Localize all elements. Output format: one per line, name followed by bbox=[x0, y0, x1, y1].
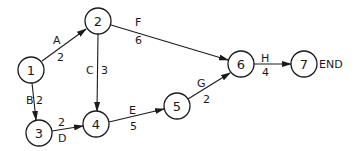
edge-g-duration: 2 bbox=[203, 93, 210, 106]
node-7-label: 7 bbox=[300, 57, 308, 72]
edge-a-activity: A bbox=[53, 34, 61, 47]
edge-a bbox=[42, 29, 86, 61]
edge-c bbox=[97, 34, 98, 111]
edge-d bbox=[52, 126, 83, 131]
node-1: 1 bbox=[18, 57, 44, 83]
edge-c-duration: 3 bbox=[101, 64, 108, 77]
node-4: 4 bbox=[83, 111, 109, 137]
node-2: 2 bbox=[85, 8, 111, 34]
node-2-label: 2 bbox=[94, 14, 102, 29]
end-label: END bbox=[319, 58, 343, 71]
edge-e-duration: 5 bbox=[130, 120, 137, 133]
node-5-label: 5 bbox=[173, 99, 181, 114]
edge-e-activity: E bbox=[129, 104, 136, 117]
node-6: 6 bbox=[228, 51, 254, 77]
node-7: 7 bbox=[291, 51, 317, 77]
node-3-label: 3 bbox=[35, 126, 43, 141]
edge-a-duration: 2 bbox=[57, 51, 64, 64]
node-4-label: 4 bbox=[92, 117, 100, 132]
network-diagram: A 2 B 2 C 3 2 D E 5 F 6 G 2 H 4 1 2 3 4 … bbox=[0, 0, 356, 151]
node-1-label: 1 bbox=[27, 63, 35, 78]
edge-h-activity: H bbox=[261, 52, 269, 65]
edge-d-activity: D bbox=[58, 132, 66, 145]
node-6-label: 6 bbox=[237, 57, 245, 72]
edge-b-duration: 2 bbox=[36, 94, 43, 107]
edge-f-duration: 6 bbox=[135, 34, 142, 47]
edge-b-activity: B bbox=[26, 94, 34, 107]
edge-f bbox=[111, 25, 228, 60]
edge-c-activity: C bbox=[86, 64, 94, 77]
node-5: 5 bbox=[164, 93, 190, 119]
node-3: 3 bbox=[26, 120, 52, 146]
edge-d-duration: 2 bbox=[58, 116, 65, 129]
edge-h-duration: 4 bbox=[262, 66, 269, 79]
edge-f-activity: F bbox=[135, 16, 141, 29]
edge-g-activity: G bbox=[197, 77, 206, 90]
